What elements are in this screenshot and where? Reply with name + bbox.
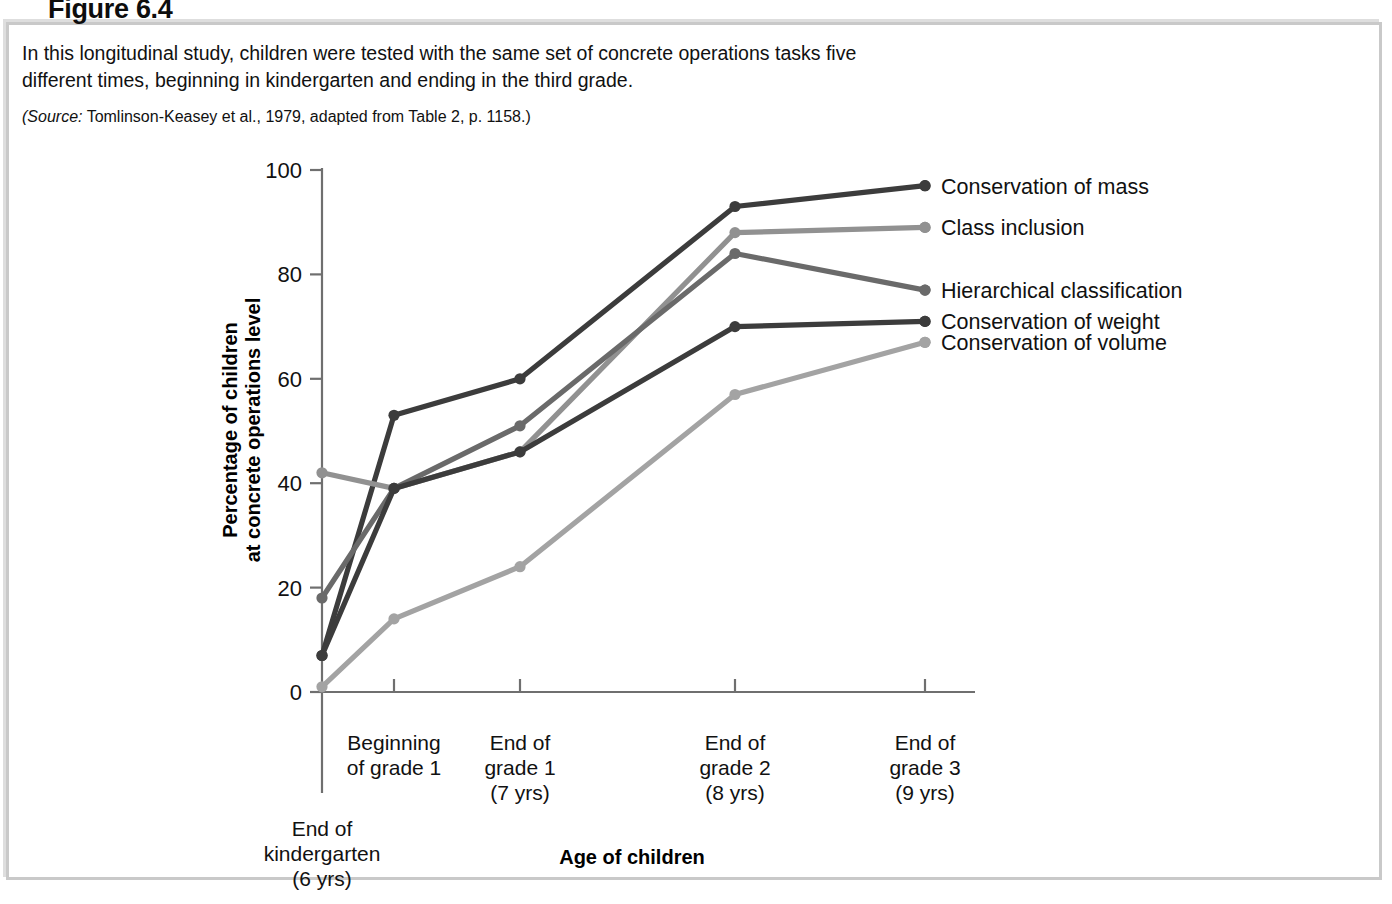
caption-line-2: different times, beginning in kindergart…: [22, 67, 1022, 94]
caption-source-text: Tomlinson-Keasey et al., 1979, adapted f…: [82, 108, 530, 125]
figure-panel: [6, 22, 1382, 880]
caption-block: In this longitudinal study, children wer…: [22, 40, 1022, 126]
caption-source: (Source: Tomlinson-Keasey et al., 1979, …: [22, 108, 1022, 126]
figure-heading: Figure 6.4: [48, 0, 173, 25]
caption-line-1: In this longitudinal study, children wer…: [22, 40, 1022, 67]
caption-source-prefix: (Source:: [22, 108, 82, 125]
